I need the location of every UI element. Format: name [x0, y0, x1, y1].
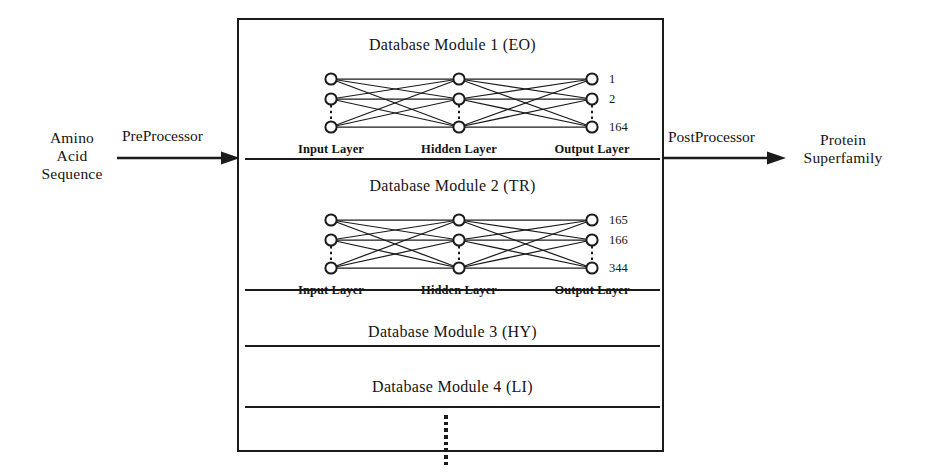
- output-node-label-1-c: 164: [609, 120, 628, 135]
- output-node-label-2-c: 344: [609, 261, 628, 276]
- neural-network-module-2: 165 166 344 Input Layer Hidden Layer Out…: [239, 213, 666, 281]
- module-title-3: Database Module 3 (HY): [239, 323, 666, 341]
- pre-processor-arrow-icon: [116, 146, 242, 170]
- input-label-line-1: Amino: [24, 129, 120, 147]
- output-label-line-1: Protein: [796, 131, 890, 149]
- output-node-label-2-b: 166: [609, 233, 628, 248]
- module-separator-3: [245, 345, 660, 347]
- post-processor-label: PostProcessor: [668, 128, 755, 145]
- neural-network-module-1: 1 2 164 Input Layer Hidden Layer Output …: [239, 72, 666, 140]
- database-module-stack: Database Module 1 (EO): [237, 18, 664, 452]
- module-title-4: Database Module 4 (LI): [239, 378, 666, 396]
- input-label-line-3: Sequence: [24, 165, 120, 183]
- layer-label-output-1: Output Layer: [554, 142, 629, 157]
- output-node-label-1-a: 1: [609, 72, 615, 87]
- module-title-1: Database Module 1 (EO): [239, 36, 666, 54]
- amino-acid-sequence-label: Amino Acid Sequence: [24, 129, 120, 183]
- pre-processor-label: PreProcessor: [122, 127, 203, 144]
- network-architecture-figure: Amino Acid Sequence PreProcessor Databas…: [0, 0, 926, 476]
- input-label-line-2: Acid: [24, 147, 120, 165]
- network-diagram-1: [239, 72, 666, 140]
- output-label-line-2: Superfamily: [796, 149, 890, 167]
- vertical-ellipsis-icon: [444, 415, 448, 449]
- protein-superfamily-label: Protein Superfamily: [796, 131, 916, 167]
- network-diagram-2: [239, 213, 666, 281]
- module-separator-4: [245, 406, 660, 408]
- post-processor-arrow-icon: [662, 146, 788, 170]
- layer-label-input-1: Input Layer: [298, 142, 364, 157]
- module-title-2: Database Module 2 (TR): [239, 177, 666, 195]
- layer-label-hidden-1: Hidden Layer: [421, 142, 497, 157]
- output-node-label-1-b: 2: [609, 92, 615, 107]
- module-separator-1: [245, 158, 660, 160]
- module-separator-2: [245, 289, 660, 291]
- output-node-label-2-a: 165: [609, 213, 628, 228]
